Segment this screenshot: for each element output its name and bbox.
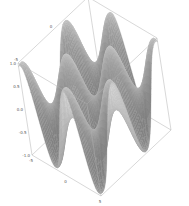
surface-facet [106,130,107,139]
surface-facet [106,113,107,122]
surface-facet [149,127,150,134]
surface-facet [62,126,63,134]
surface-facet [62,113,63,121]
surface-facet [59,154,61,159]
surface-facet [62,119,63,127]
surface-plot: 1.00.50.0-0.5-1.0-505-505 [0,0,189,206]
surface-facet [149,94,150,103]
surface-facet [59,142,60,149]
surface-facet [105,138,106,147]
z-tick-label: 0.0 [17,107,24,112]
surface-facet [61,127,62,135]
surface-facet [150,103,151,112]
surface-facet [105,129,106,138]
surface-facet [106,147,107,156]
surface-facet [61,120,62,128]
surface-facet [61,134,62,142]
surface-facet [105,163,106,170]
z-tick-label: -1.0 [22,153,30,158]
surface-facet [150,86,151,95]
surface-facet [63,119,64,127]
y-tick-label: 0 [50,24,53,29]
surface-facet [149,85,150,94]
box-edge [157,38,171,130]
y-tick-label: -5 [14,57,18,62]
surface-facet [63,125,64,133]
surface-facet [150,94,151,103]
z-tick-label: 0.5 [13,84,20,89]
x-tick-label: -5 [29,158,33,163]
surface-facet [106,138,107,147]
surface-facet [150,111,151,119]
surface-facet [104,128,105,137]
surface-facet [106,155,107,163]
surface-facet [106,121,107,130]
surface-facet [102,136,103,145]
surface-facet [105,170,106,177]
x-tick-label: 5 [99,199,102,204]
surface-facet [104,137,105,146]
surface-facet [148,93,149,102]
surface-facet [146,92,147,101]
surface-facet [58,159,60,163]
surface-facet [59,135,60,142]
surface-facet [150,120,151,128]
z-tick-label: -0.5 [19,130,27,135]
surface-facet [150,77,151,86]
surface-facet [150,69,151,78]
x-tick-label: 0 [64,179,67,184]
box-edge [88,0,157,38]
surface-facet [147,102,148,111]
surface-facet [59,148,61,154]
surface-facet [63,112,64,119]
surface-facet [148,84,149,93]
surface-facet [146,84,147,93]
surface-facet [102,128,103,137]
